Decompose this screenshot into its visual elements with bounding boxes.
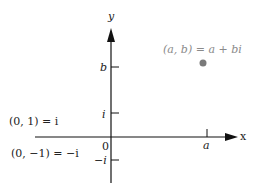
annotation-i: (0, 1) = i — [9, 115, 59, 128]
tick-label-b: b — [100, 61, 107, 74]
origin-label: 0 — [102, 140, 109, 153]
diagram-canvas: y x 0 b i −i a (a, b) = a + bi (0, 1) = … — [0, 0, 257, 185]
tick-label-i: i — [102, 108, 106, 121]
complex-plane-diagram: y x 0 b i −i a (a, b) = a + bi (0, 1) = … — [0, 0, 257, 185]
tick-label-neg-i: −i — [94, 154, 107, 167]
y-axis-label: y — [107, 10, 115, 23]
tick-label-a: a — [203, 139, 210, 152]
point-label: (a, b) = a + bi — [163, 43, 242, 56]
annotation-neg-i: (0, −1) = −i — [11, 147, 79, 160]
x-axis-arrow-icon — [225, 133, 238, 141]
y-axis-arrow-icon — [107, 28, 115, 42]
point-a-b — [200, 60, 207, 67]
x-axis-label: x — [240, 130, 247, 143]
